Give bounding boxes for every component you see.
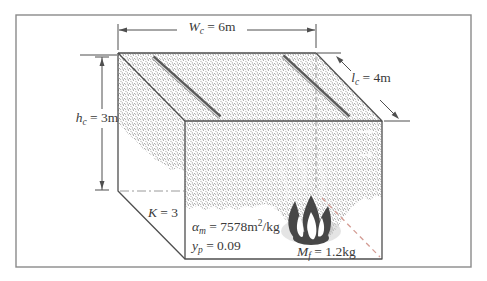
figure-canvas: Wc = 6m lc = 4m hc = 3m K = 3 αm = 7578m…: [0, 0, 487, 281]
alpha-label: αm = 7578m2/kg: [192, 218, 280, 236]
k-label: K = 3: [147, 205, 178, 220]
fire-compartment-diagram: Wc = 6m lc = 4m hc = 3m K = 3 αm = 7578m…: [0, 0, 487, 281]
yp-label: yp = 0.09: [190, 238, 241, 255]
height-label: hc = 3m: [76, 110, 119, 127]
width-label: Wc = 6m: [188, 19, 236, 36]
mf-label: Mf = 1.2kg: [296, 244, 356, 261]
